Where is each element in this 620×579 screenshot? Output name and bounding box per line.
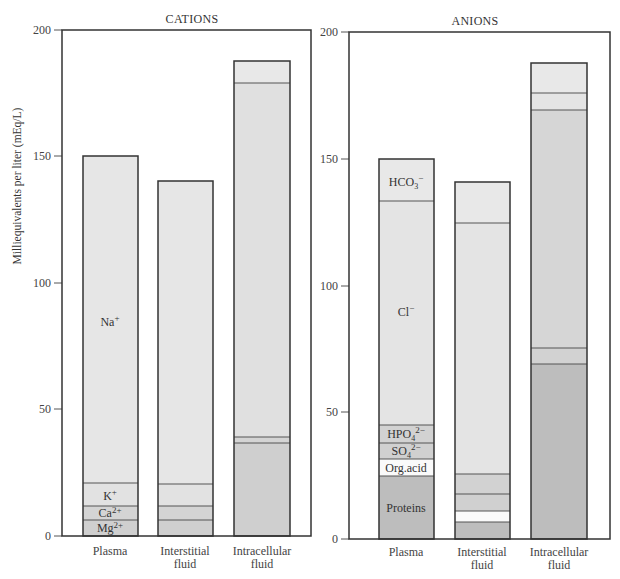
label-proteins: Proteins	[386, 501, 426, 515]
anions-tick-150: 150	[320, 152, 338, 166]
anions-tick-100: 100	[320, 279, 338, 293]
label-org-acid: Org.acid	[385, 461, 426, 475]
cations-xlabel-plasma: Plasma	[93, 544, 128, 558]
anions-xlabel-interstitial-2: fluid	[471, 558, 494, 572]
cations-bar-plasma: Na+ K+ Ca2+ Mg2+	[83, 156, 138, 536]
cations-xlabel-interstitial-2: fluid	[174, 557, 197, 571]
cations-tick-100: 100	[33, 276, 51, 290]
cations-bar-intracellular	[234, 61, 290, 536]
cations-tick-50: 50	[39, 402, 51, 416]
cations-tick-150: 150	[33, 149, 51, 163]
anions-xlabel-intracellular-2: fluid	[548, 558, 571, 572]
anions-bar-plasma: HCO3− Cl− HPO42− SO42− Org.acid Proteins	[379, 159, 434, 539]
anions-bar-interstitial	[455, 182, 510, 539]
anions-tick-0: 0	[332, 532, 338, 546]
anions-tick-50: 50	[326, 405, 338, 419]
cations-tick-200: 200	[33, 23, 51, 37]
cations-xlabel-intracellular-2: fluid	[251, 557, 274, 571]
cations-xlabel-interstitial: Interstitial	[160, 544, 210, 558]
anions-xlabel-plasma: Plasma	[389, 545, 424, 559]
label-hco3: HCO3−	[389, 173, 423, 191]
anions-bar-intracellular	[531, 63, 587, 539]
cations-panel: 200 150 100 50 0 Na+ K+ Ca2+ Mg2+	[33, 23, 311, 571]
anions-xlabel-interstitial: Interstitial	[457, 545, 507, 559]
anions-y-ticks	[341, 32, 349, 539]
cations-bar-interstitial	[158, 181, 213, 536]
cations-xlabel-intracellular: Intracellular	[233, 544, 292, 558]
chart-canvas: 200 150 100 50 0 Na+ K+ Ca2+ Mg2+	[0, 0, 620, 579]
anions-panel: 200 150 100 50 0 HCO3− Cl− HPO42− SO42− …	[320, 25, 610, 572]
anions-tick-200: 200	[320, 25, 338, 39]
cations-y-ticks	[54, 30, 62, 536]
cations-tick-0: 0	[45, 529, 51, 543]
anions-xlabel-intracellular: Intracellular	[530, 545, 589, 559]
